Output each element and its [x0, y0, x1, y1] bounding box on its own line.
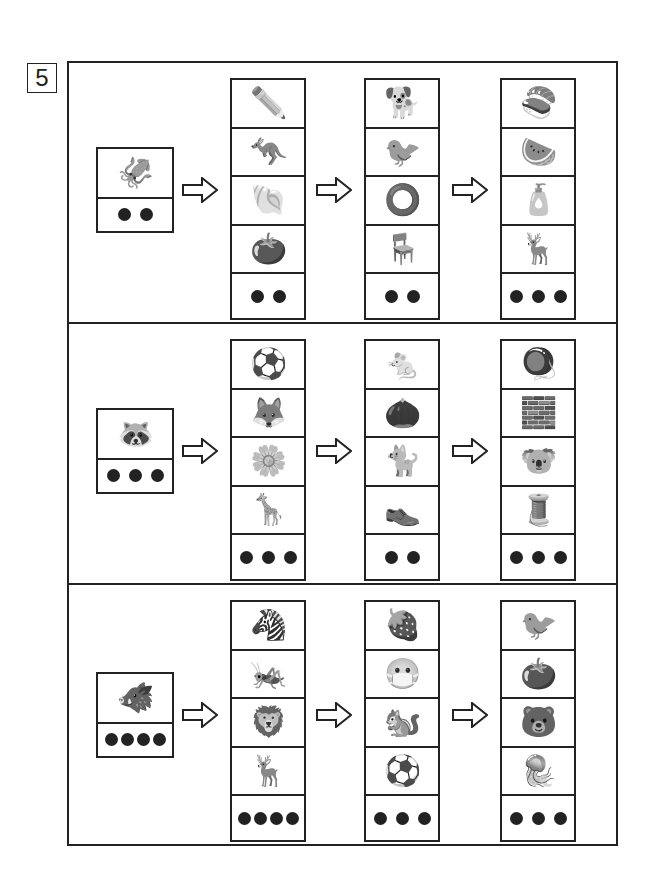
- column-dots-cell: [366, 796, 438, 840]
- picture-cell-sparrow[interactable]: 🐦: [502, 602, 574, 651]
- picture-cell-persimmon[interactable]: 🍅: [232, 226, 304, 275]
- cat-icon: 🐈: [384, 446, 421, 476]
- dot-icon: [286, 812, 299, 825]
- picture-cell-blocks[interactable]: 🧱: [502, 390, 574, 439]
- start-card[interactable]: 🐗: [96, 672, 174, 758]
- dot-icon: [254, 812, 267, 825]
- dot-icon: [554, 551, 567, 564]
- dot-count: [385, 290, 420, 303]
- start-dots-cell: [98, 724, 172, 755]
- picture-cell-shells[interactable]: 🐚: [232, 177, 304, 226]
- beads-icon: ⭕: [384, 185, 421, 215]
- raccoon-dog-icon: 🦝: [117, 419, 154, 449]
- zebra-icon: 🦓: [250, 610, 287, 640]
- dot-icon: [385, 551, 398, 564]
- picture-cell-zebra[interactable]: 🦓: [232, 602, 304, 651]
- dot-icon: [118, 208, 131, 221]
- reindeer-icon: 🦌: [250, 756, 287, 786]
- mask-icon: 😷: [384, 659, 421, 689]
- picture-cell-dog[interactable]: 🐕: [366, 80, 438, 129]
- column-dots-cell: [366, 274, 438, 318]
- picture-cell-pencil[interactable]: ✏️: [232, 80, 304, 129]
- picture-cell-chrysanthemum[interactable]: 🌼: [232, 438, 304, 487]
- dot-icon: [270, 812, 283, 825]
- column-dots-cell: [232, 535, 304, 579]
- picture-cell-bear[interactable]: 🐻: [502, 699, 574, 748]
- dot-icon: [418, 812, 431, 825]
- picture-cell-kangaroo[interactable]: 🦘: [232, 129, 304, 178]
- start-picture-cell: 🦑: [98, 149, 172, 199]
- picture-cell-deer[interactable]: 🦌: [502, 226, 574, 275]
- dot-count: [240, 551, 297, 564]
- sushi-icon: 🍣: [520, 88, 557, 118]
- arrow-right-icon: [182, 702, 218, 728]
- mantis-icon: 🦗: [250, 659, 287, 689]
- picture-cell-chair[interactable]: 🪑: [366, 226, 438, 275]
- tomato-icon: 🍅: [520, 659, 557, 689]
- picture-cell-spinning-top[interactable]: 🪀: [502, 341, 574, 390]
- row-divider: [69, 322, 616, 324]
- dot-count: [374, 812, 431, 825]
- picture-cell-sushi[interactable]: 🍣: [502, 80, 574, 129]
- chipmunk-icon: 🐿️: [384, 707, 421, 737]
- picture-cell-cat[interactable]: 🐈: [366, 438, 438, 487]
- picture-cell-strawberry[interactable]: 🍓: [366, 602, 438, 651]
- picture-cell-sewing-machine[interactable]: 🧵: [502, 487, 574, 536]
- mouse-icon: 🐁: [384, 349, 421, 379]
- dot-icon: [510, 812, 523, 825]
- dot-icon: [396, 812, 409, 825]
- column-dots-cell: [232, 796, 304, 840]
- picture-cell-mouse[interactable]: 🐁: [366, 341, 438, 390]
- dot-icon: [407, 551, 420, 564]
- picture-cell-koala[interactable]: 🐨: [502, 438, 574, 487]
- picture-cell-jellyfish[interactable]: 🪼: [502, 748, 574, 797]
- picture-cell-pheasant[interactable]: 🐦: [366, 129, 438, 178]
- dot-count: [118, 208, 153, 221]
- dot-count: [510, 812, 567, 825]
- picture-cell-mantis[interactable]: 🦗: [232, 651, 304, 700]
- picture-cell-watermelon[interactable]: 🍉: [502, 129, 574, 178]
- choice-column: 🐦🍅🐻🪼: [500, 600, 576, 842]
- picture-cell-beads[interactable]: ⭕: [366, 177, 438, 226]
- picture-cell-lion-dance[interactable]: 🦁: [232, 699, 304, 748]
- pencil-icon: ✏️: [250, 88, 287, 118]
- deer-icon: 🦌: [520, 234, 557, 264]
- column-dots-cell: [366, 535, 438, 579]
- arrow-right-icon: [182, 438, 218, 464]
- dot-icon: [238, 812, 251, 825]
- dot-count: [107, 469, 164, 482]
- picture-cell-giraffe[interactable]: 🦒: [232, 487, 304, 536]
- water-canteen-icon: 🧴: [520, 185, 557, 215]
- picture-cell-mask[interactable]: 😷: [366, 651, 438, 700]
- giraffe-icon: 🦒: [250, 495, 287, 525]
- picture-cell-water-canteen[interactable]: 🧴: [502, 177, 574, 226]
- jellyfish-icon: 🪼: [520, 756, 557, 786]
- picture-cell-ball[interactable]: ⚽: [366, 748, 438, 797]
- choice-column: 🪀🧱🐨🧵: [500, 339, 576, 581]
- picture-cell-chestnut[interactable]: 🌰: [366, 390, 438, 439]
- start-dots-cell: [98, 199, 172, 230]
- picture-cell-tomato[interactable]: 🍅: [502, 651, 574, 700]
- picture-cell-shoes[interactable]: 👞: [366, 487, 438, 536]
- dot-count: [385, 551, 420, 564]
- column-dots-cell: [232, 274, 304, 318]
- arrow-right-icon: [452, 702, 488, 728]
- bear-icon: 🐻: [520, 707, 557, 737]
- picture-cell-chipmunk[interactable]: 🐿️: [366, 699, 438, 748]
- pheasant-icon: 🐦: [384, 137, 421, 167]
- start-dots-cell: [98, 460, 172, 491]
- start-picture-cell: 🦝: [98, 410, 172, 460]
- picture-cell-reindeer[interactable]: 🦌: [232, 748, 304, 797]
- dot-icon: [284, 551, 297, 564]
- start-card[interactable]: 🦝: [96, 408, 174, 494]
- start-card[interactable]: 🦑: [96, 147, 174, 233]
- dot-icon: [510, 290, 523, 303]
- dot-icon: [407, 290, 420, 303]
- choice-column: 🐕🐦⭕🪑: [364, 78, 440, 320]
- dot-icon: [554, 812, 567, 825]
- dot-icon: [251, 290, 264, 303]
- picture-cell-fox[interactable]: 🦊: [232, 390, 304, 439]
- picture-cell-ball[interactable]: ⚽: [232, 341, 304, 390]
- arrow-right-icon: [182, 177, 218, 203]
- blocks-icon: 🧱: [520, 398, 557, 428]
